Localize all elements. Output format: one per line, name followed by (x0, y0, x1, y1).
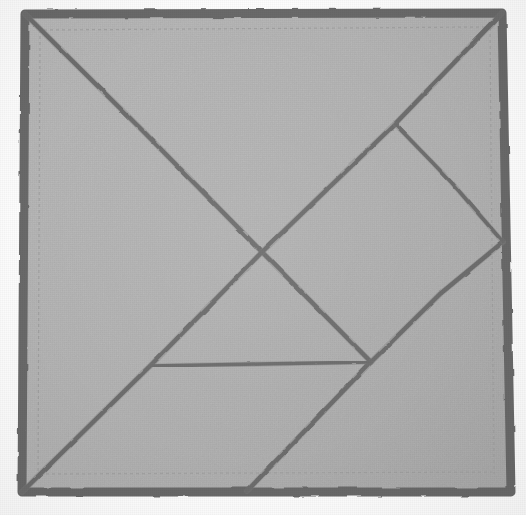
tangram-figure (0, 0, 526, 515)
image-canvas (0, 0, 526, 515)
